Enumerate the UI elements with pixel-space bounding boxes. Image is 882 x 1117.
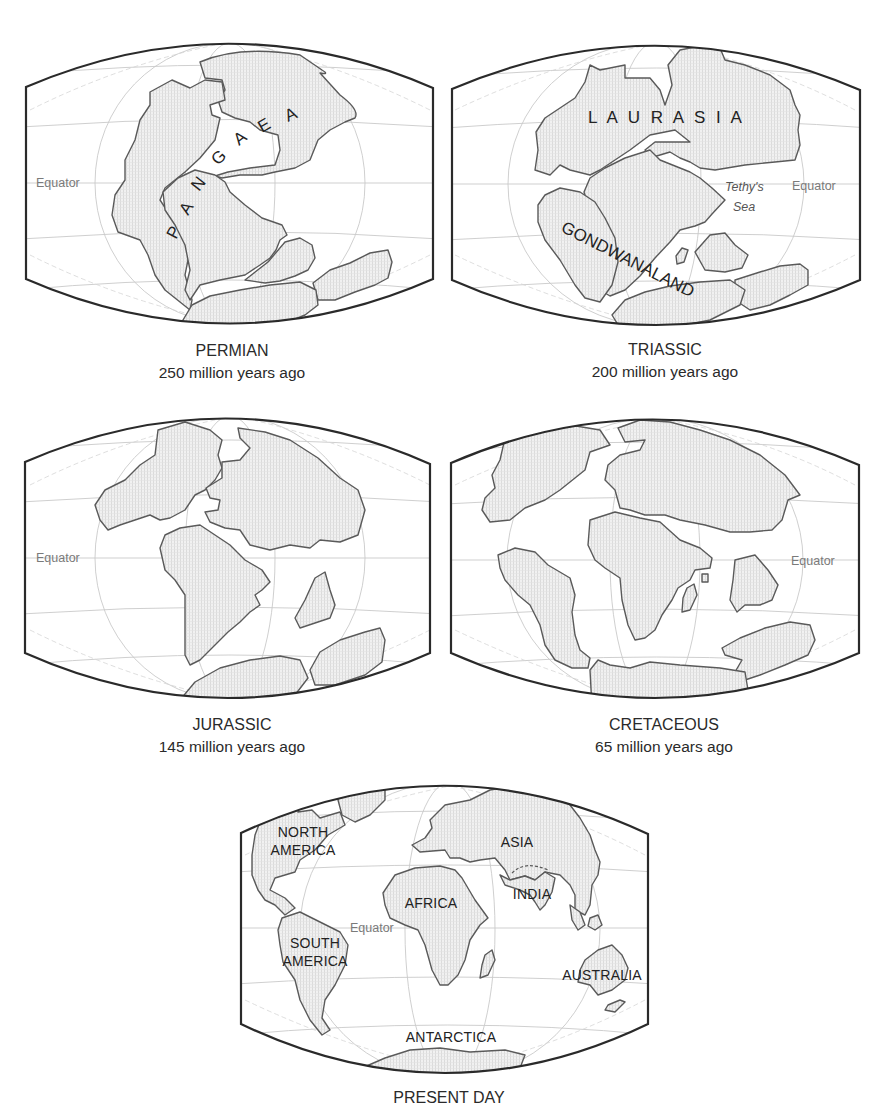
landmass-greenland <box>338 782 385 822</box>
landmass-madagascar <box>682 584 697 612</box>
panel-cretaceous: Equator CRETACEOUS 65 million years ago <box>445 418 870 755</box>
panel-title: CRETACEOUS <box>609 716 719 733</box>
landmass-africa <box>588 512 712 640</box>
label-north-america-line2: AMERICA <box>270 842 336 858</box>
label-tethys-sea-line1: Tethy's <box>725 180 764 194</box>
panel-title: TRIASSIC <box>628 341 702 358</box>
landmass-gondwana-india <box>695 233 748 272</box>
panel-title: PERMIAN <box>196 342 269 359</box>
panel-age: 250 million years ago <box>159 364 305 381</box>
panel-title: PRESENT DAY <box>393 1089 505 1106</box>
landmass-island <box>702 574 708 582</box>
label-south-america-line2: AMERICA <box>282 953 348 969</box>
landmass-africa <box>383 866 488 985</box>
landmasses <box>112 51 392 330</box>
equator-label: Equator <box>791 554 835 568</box>
landmass-india <box>730 555 778 612</box>
label-north-america-line1: NORTH <box>278 824 329 840</box>
landmass-antarctica <box>590 660 748 712</box>
landmass-india <box>295 572 335 628</box>
panel-present-day: Equator NORTH AMERICA SOUTH AMERICA AFRI… <box>235 782 655 1106</box>
label-pangaea-letter: A <box>230 127 251 149</box>
label-south-america-line1: SOUTH <box>290 935 340 951</box>
equator-label: Equator <box>792 179 836 193</box>
landmass-new-zealand <box>605 1000 625 1012</box>
landmass-north-america <box>95 422 222 530</box>
landmass-eurasia <box>605 420 800 532</box>
panel-age: 145 million years ago <box>159 738 305 755</box>
landmass-madagascar <box>676 248 688 264</box>
label-laurasia: L A U R A S I A <box>588 108 745 127</box>
panel-title: JURASSIC <box>192 716 271 733</box>
landmass-pangaea-australia-link <box>313 250 392 300</box>
equator-label: Equator <box>36 176 80 190</box>
panel-age: 65 million years ago <box>595 738 733 755</box>
landmass-south-america <box>498 548 590 668</box>
continental-drift-figure: Equator P A N G A E A PERMIAN 250 millio… <box>0 0 882 1117</box>
landmass-antarctica <box>362 1048 525 1080</box>
label-asia: ASIA <box>501 834 534 850</box>
panel-age: 200 million years ago <box>592 363 738 380</box>
landmass-australia-antarctica <box>310 628 385 685</box>
equator-label: Equator <box>36 551 80 565</box>
equator-label: Equator <box>350 921 394 935</box>
label-tethys-sea-line2: Sea <box>733 200 755 214</box>
landmass-south-america <box>278 912 348 1035</box>
landmass-north-america <box>482 425 610 522</box>
panel-triassic: Equator L A U R A S I A GONDWANALAND Tet… <box>445 42 870 380</box>
label-india: INDIA <box>513 886 552 902</box>
label-africa: AFRICA <box>405 895 458 911</box>
landmasses <box>482 420 815 712</box>
panel-permian: Equator P A N G A E A PERMIAN 250 millio… <box>20 40 440 381</box>
label-pangaea-letter: G <box>207 146 230 169</box>
label-australia: AUSTRALIA <box>562 967 642 983</box>
label-antarctica: ANTARCTICA <box>406 1029 497 1045</box>
map-jurassic <box>20 415 440 705</box>
panel-jurassic: Equator JURASSIC 145 million years ago <box>20 415 440 755</box>
map-permian <box>20 40 440 330</box>
